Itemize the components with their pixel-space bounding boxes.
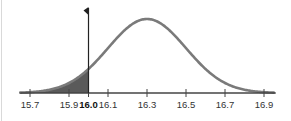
x-tick-label: 16.7 (216, 99, 235, 110)
x-tick-label: 16.3 (138, 99, 157, 110)
x-axis-tick-labels: 15.715.916.016.116.316.516.716.9 (21, 99, 274, 110)
flag-icon (84, 7, 89, 15)
x-tick-label: 16.9 (255, 99, 274, 110)
x-tick-label: 16.5 (177, 99, 196, 110)
x-tick-label: 15.9 (60, 99, 79, 110)
x-tick-label: 16.1 (99, 99, 118, 110)
x-tick-label: 16.0 (79, 99, 98, 110)
bell-curve (20, 19, 274, 93)
normal-distribution-chart: 15.715.916.016.116.316.516.716.9 (0, 0, 291, 121)
x-tick-label: 15.7 (21, 99, 40, 110)
